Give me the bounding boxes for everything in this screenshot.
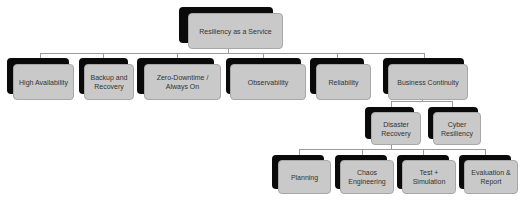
connector-level1-bus — [40, 53, 424, 54]
node-label: Chaos Engineering — [340, 160, 394, 194]
node-label: Test + Simulation — [402, 160, 456, 194]
node-label: Cyber Resiliency — [433, 112, 481, 145]
node-label: Disaster Recovery — [371, 112, 421, 145]
node-label: Planning — [278, 160, 331, 194]
node-label: Observability — [230, 64, 306, 100]
connector-level2-bus — [391, 101, 452, 102]
node-label: Business Continuity — [388, 64, 468, 100]
node-label: Evaluation & Report — [464, 160, 518, 194]
node-label: Resiliency as a Service — [188, 13, 283, 49]
node-label: Backup and Recovery — [84, 64, 134, 100]
connector-level3-bus — [299, 149, 485, 150]
node-label: High Availability — [13, 64, 74, 100]
node-label: Reliability — [316, 64, 371, 100]
node-label: Zero-Downtime / Always On — [144, 64, 221, 100]
